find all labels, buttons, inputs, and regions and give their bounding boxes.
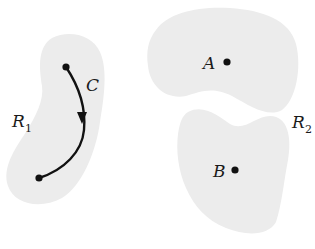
point-a-label: A [201, 53, 215, 73]
region-r1-label: R [11, 111, 25, 131]
region-r2-subscript: 2 [305, 123, 312, 136]
region-r2-upper-shape [147, 8, 298, 113]
point-a [223, 58, 230, 65]
curve-end-point [35, 174, 42, 181]
curve-c-label: C [86, 75, 99, 95]
connectedness-diagram: C R 1 A R 2 B [0, 0, 315, 249]
diagram-canvas: C R 1 A R 2 B [0, 0, 315, 249]
point-b [231, 166, 238, 173]
region-r1-subscript: 1 [25, 122, 32, 135]
curve-start-point [62, 63, 69, 70]
region-r2-label: R [291, 112, 305, 132]
point-b-label: B [212, 161, 226, 181]
